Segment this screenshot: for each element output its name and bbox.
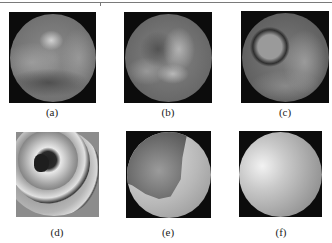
- speckle-disc: [10, 14, 96, 102]
- panel-c-image: [241, 11, 329, 103]
- speckle-disc: [125, 14, 212, 102]
- panel-a-label: (a): [32, 106, 72, 118]
- smooth-disc: [239, 132, 322, 217]
- panel-b-image: [124, 12, 212, 103]
- speckle-disc: [242, 13, 329, 102]
- top-rule-tick: [100, 3, 101, 6]
- dark-center: [34, 154, 49, 172]
- panel-b-label: (b): [148, 106, 188, 118]
- panel-f-image: [239, 131, 322, 217]
- panel-e-image: [126, 131, 211, 218]
- panel-f-label: (f): [261, 226, 301, 238]
- panel-d-image: [16, 132, 99, 217]
- panel-e-label: (e): [148, 226, 188, 238]
- top-rule: [0, 2, 332, 3]
- panel-d-label: (d): [37, 226, 77, 238]
- panel-a-image: [9, 12, 96, 103]
- panel-c-label: (c): [265, 106, 305, 118]
